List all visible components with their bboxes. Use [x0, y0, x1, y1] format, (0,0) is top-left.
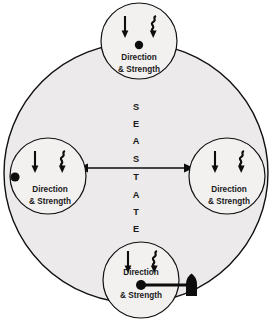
axis-letter-0: S — [133, 102, 139, 112]
sea-state-diagram: S E A S T A T E Direction & Strength — [0, 0, 272, 319]
axis-letter-1: E — [133, 119, 139, 129]
axis-letter-4: T — [133, 172, 139, 182]
diagram-canvas: S E A S T A T E Direction & Strength — [0, 0, 272, 319]
node-left-dot — [10, 172, 19, 181]
axis-letter-3: S — [133, 154, 139, 164]
node-bottom-dot — [136, 280, 146, 290]
node-top-dot — [135, 41, 143, 49]
node-right-label-line1: Direction — [211, 185, 247, 194]
axis-letter-7: E — [133, 224, 139, 234]
node-left-label-line1: Direction — [32, 185, 68, 194]
axis-letter-6: T — [133, 207, 139, 217]
node-left[interactable]: Direction & Strength — [10, 138, 86, 214]
node-top[interactable]: Direction & Strength — [101, 3, 177, 79]
node-bottom-label-line1: Direction — [123, 268, 159, 277]
node-right-label-line2: & Strength — [208, 197, 250, 206]
axis-letter-2: A — [133, 136, 140, 146]
node-left-label-line2: & Strength — [29, 197, 71, 206]
node-top-label-line1: Direction — [121, 53, 157, 62]
axis-letter-5: A — [133, 190, 140, 200]
node-right[interactable]: Direction & Strength — [189, 138, 265, 214]
node-bottom-label-line2: & Strength — [120, 291, 162, 300]
node-top-label-line2: & Strength — [118, 65, 160, 74]
